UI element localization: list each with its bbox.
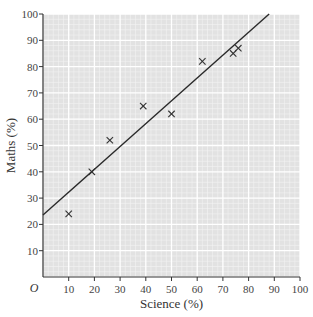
y-tick-label: 60 xyxy=(27,113,39,125)
x-tick-label: 60 xyxy=(192,283,204,295)
y-tick-label: 20 xyxy=(27,218,39,230)
x-tick-label: 100 xyxy=(292,283,309,295)
x-axis-title: Science (%) xyxy=(140,296,203,311)
x-tick-label: 40 xyxy=(140,283,152,295)
x-tick-label: 70 xyxy=(217,283,229,295)
x-tick-label: 90 xyxy=(269,283,281,295)
y-tick-label: 80 xyxy=(27,61,39,73)
origin-label: O xyxy=(30,281,39,295)
y-tick-label: 100 xyxy=(22,8,39,20)
y-axis-title: Maths (%) xyxy=(3,118,18,173)
x-axis-ticks: 102030405060708090100 xyxy=(63,277,309,295)
x-tick-label: 20 xyxy=(89,283,101,295)
plot-area xyxy=(43,14,300,277)
x-tick-label: 30 xyxy=(115,283,127,295)
y-tick-label: 40 xyxy=(27,166,39,178)
y-tick-label: 30 xyxy=(27,192,39,204)
y-tick-label: 70 xyxy=(27,87,39,99)
x-tick-label: 80 xyxy=(243,283,255,295)
y-tick-label: 90 xyxy=(27,34,39,46)
x-tick-label: 50 xyxy=(166,283,178,295)
y-axis-ticks: 102030405060708090100 xyxy=(22,8,44,257)
y-tick-label: 10 xyxy=(27,245,39,257)
y-tick-label: 50 xyxy=(27,140,39,152)
x-tick-label: 10 xyxy=(63,283,75,295)
scatter-chart: 102030405060708090100 102030405060708090… xyxy=(0,0,313,317)
